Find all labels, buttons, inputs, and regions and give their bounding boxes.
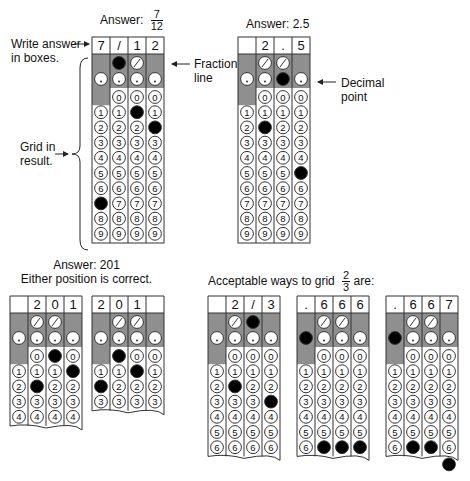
decimal-bubble[interactable] (95, 332, 108, 345)
digit-bubble-2[interactable] (149, 121, 162, 134)
digit-bubble-6[interactable] (318, 441, 331, 454)
svg-text:2: 2 (98, 122, 103, 133)
overflow-digit-bubble[interactable] (443, 458, 456, 471)
svg-text:1: 1 (34, 366, 39, 377)
decimal-bubble[interactable] (425, 332, 438, 345)
decimal-bubble[interactable] (31, 332, 44, 345)
answer-box-3[interactable]: 3 (267, 297, 274, 312)
decimal-bubble[interactable] (67, 332, 80, 345)
svg-text:6: 6 (232, 442, 237, 453)
decimal-bubble[interactable] (13, 332, 26, 345)
svg-text:1: 1 (280, 107, 285, 118)
decimal-bubble[interactable] (131, 73, 144, 86)
digit-bubble-0[interactable] (49, 350, 62, 363)
answer-box-1[interactable]: 6 (409, 297, 416, 312)
decimal-bubble[interactable] (354, 332, 367, 345)
decimal-bubble[interactable] (149, 332, 162, 345)
digit-bubble-2[interactable] (259, 121, 272, 134)
decimal-bubble[interactable] (95, 73, 108, 86)
digit-bubble-1[interactable] (131, 365, 144, 378)
answer-box-3[interactable]: 7 (445, 297, 452, 312)
svg-text:2: 2 (428, 381, 433, 392)
digit-bubble-1[interactable] (131, 106, 144, 119)
digit-bubble-2[interactable] (31, 380, 44, 393)
answer-box-3[interactable]: 2 (151, 38, 158, 53)
digit-bubble-2[interactable] (229, 380, 242, 393)
digit-bubble-6[interactable] (354, 441, 367, 454)
decimal-bubble[interactable] (389, 332, 402, 345)
digit-bubble-6[interactable] (425, 441, 438, 454)
answer-box-2[interactable]: / (251, 297, 255, 312)
zero-cell-shading (10, 347, 28, 364)
answer-box-1[interactable]: 2 (33, 297, 40, 312)
answer-box-1[interactable]: 6 (320, 297, 327, 312)
answer-box-3[interactable]: 6 (356, 297, 363, 312)
svg-text:5: 5 (250, 427, 255, 438)
digit-bubble-5[interactable] (295, 167, 308, 180)
decimal-bubble[interactable] (113, 332, 126, 345)
answer-box-2[interactable]: 1 (133, 38, 140, 53)
svg-text:3: 3 (410, 396, 415, 407)
svg-text:2: 2 (446, 381, 451, 392)
svg-text:3: 3 (244, 137, 249, 148)
digit-bubble-0[interactable] (113, 350, 126, 363)
svg-text:6: 6 (116, 183, 121, 194)
answer-box-0[interactable]: . (304, 297, 308, 312)
decimal-bubble[interactable] (300, 332, 313, 345)
answer-box-2[interactable]: 0 (51, 297, 58, 312)
answer-box-2[interactable]: 6 (338, 297, 345, 312)
answer-box-0[interactable]: 2 (97, 297, 104, 312)
answer-box-1[interactable]: / (117, 38, 121, 53)
digit-bubble-3[interactable] (265, 395, 278, 408)
svg-text:9: 9 (116, 228, 121, 239)
decimal-bubble[interactable] (318, 332, 331, 345)
digit-bubble-7[interactable] (95, 197, 108, 210)
decimal-bubble[interactable] (49, 332, 62, 345)
decimal-bubble[interactable] (211, 332, 224, 345)
svg-text:6: 6 (446, 442, 451, 453)
decimal-bubble[interactable] (229, 332, 242, 345)
decimal-bubble[interactable] (336, 332, 349, 345)
digit-bubble-1[interactable] (67, 365, 80, 378)
svg-text:1: 1 (152, 366, 157, 377)
decimal-bubble[interactable] (295, 73, 308, 86)
answer-box-1[interactable]: 2 (231, 297, 238, 312)
decimal-bubble[interactable] (247, 332, 260, 345)
grid-201-a: 2011234013412340234 (10, 296, 82, 430)
slash-bubble[interactable] (247, 316, 260, 329)
svg-text:9: 9 (244, 228, 249, 239)
answer-box-2[interactable]: 6 (427, 297, 434, 312)
decimal-bubble[interactable] (259, 73, 272, 86)
svg-text:1: 1 (303, 366, 308, 377)
answer-box-1[interactable]: 2 (261, 38, 268, 53)
svg-text:5: 5 (303, 427, 308, 438)
answer-box-2[interactable]: . (281, 38, 285, 53)
svg-text:2: 2 (134, 381, 139, 392)
decimal-bubble[interactable] (277, 73, 290, 86)
decimal-bubble[interactable] (443, 332, 456, 345)
svg-text:4: 4 (152, 152, 157, 163)
answer-box-0[interactable]: . (393, 297, 397, 312)
decimal-bubble[interactable] (149, 73, 162, 86)
answer-box-1[interactable]: 0 (115, 297, 122, 312)
svg-text:5: 5 (268, 427, 273, 438)
decimal-bubble[interactable] (241, 73, 254, 86)
svg-text:2: 2 (134, 122, 139, 133)
digit-bubble-6[interactable] (407, 441, 420, 454)
digit-bubble-2[interactable] (95, 380, 108, 393)
answer-box-3[interactable]: 1 (69, 297, 76, 312)
digit-bubble-6[interactable] (336, 441, 349, 454)
decimal-bubble[interactable] (265, 332, 278, 345)
decimal-bubble[interactable] (113, 73, 126, 86)
decimal-bubble[interactable] (131, 332, 144, 345)
svg-text:1: 1 (339, 366, 344, 377)
decimal-bubble[interactable] (407, 332, 420, 345)
answer-box-0[interactable]: 7 (97, 38, 104, 53)
answer-box-2[interactable]: 1 (133, 297, 140, 312)
slash-bubble[interactable] (113, 57, 126, 70)
svg-text:3: 3 (303, 396, 308, 407)
svg-text:0: 0 (116, 92, 121, 103)
svg-text:7: 7 (298, 198, 303, 209)
answer-box-3[interactable]: 5 (297, 38, 304, 53)
grid-in-brace-icon (72, 58, 88, 250)
